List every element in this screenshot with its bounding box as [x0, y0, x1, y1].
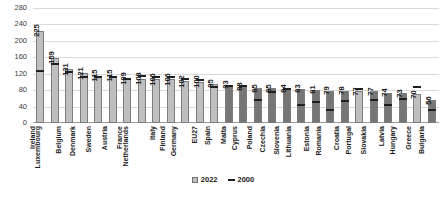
bar-group: 106 [164, 8, 179, 123]
bar-group: 109 [120, 8, 135, 123]
legend-label: 2000 [238, 176, 255, 184]
bar-2022[interactable]: 83 [297, 89, 305, 123]
legend-dash-icon [228, 179, 235, 181]
bar-2022[interactable]: 131 [65, 69, 73, 123]
x-axis-label-netherlands: Netherlands [122, 126, 129, 166]
marker-2000 [254, 99, 262, 101]
bar-group: 121 [77, 8, 92, 123]
x-axis-label-czechia: Czechia [259, 126, 266, 152]
bar-group: 84 [280, 8, 295, 123]
y-tick-label: 280 [14, 4, 27, 12]
marker-2000 [36, 70, 44, 72]
marker-2000 [152, 76, 160, 78]
x-axis-label-cyprus: Cyprus [231, 126, 238, 150]
bar-group: 108 [135, 8, 150, 123]
x-axis-label-malta: Malta [220, 126, 227, 144]
y-tick-label: 240 [14, 21, 27, 29]
x-axis-label-austria: Austria [101, 126, 108, 150]
marker-2000 [326, 109, 334, 111]
x-axis-label-greece: Greece [405, 126, 412, 150]
bar-2022[interactable]: 121 [80, 73, 88, 123]
bar-2022[interactable]: 159 [51, 58, 59, 123]
x-axis-label-germany: Germany [170, 126, 177, 156]
bar-2022[interactable]: 225 [36, 31, 44, 123]
bar-chart: 28024020016012080400 2251591311211151151… [0, 0, 446, 203]
bar-2022[interactable]: 100 [196, 82, 204, 123]
bar-series-group: 2251591311211151151091081061061021009593… [33, 8, 439, 123]
bar-value-label: 225 [33, 24, 41, 37]
bar-group: 74 [381, 8, 396, 123]
bar-2022[interactable]: 79 [326, 91, 334, 123]
x-axis-label-slovakia: Slovakia [360, 126, 367, 154]
y-tick-label: 0 [23, 119, 27, 127]
marker-2000 [399, 98, 407, 100]
marker-2000 [413, 86, 421, 88]
x-axis-label-finland: Finland [158, 126, 165, 151]
bar-2022[interactable]: 115 [109, 76, 117, 123]
plot-area: 2251591311211151151091081061061021009593… [33, 8, 439, 123]
bar-2022[interactable]: 102 [181, 81, 189, 123]
bar-2022[interactable]: 81 [312, 90, 320, 123]
bar-group: 70 [410, 8, 425, 123]
bar-2022[interactable]: 88 [239, 87, 247, 123]
x-axis-label-croatia: Croatia [333, 126, 340, 150]
marker-2000 [138, 75, 146, 77]
bar-group: 85 [251, 8, 266, 123]
marker-2000 [94, 76, 102, 78]
bar-value-label: 77 [366, 87, 374, 95]
bar-2022[interactable]: 70 [413, 94, 421, 123]
bar-2022[interactable]: 77 [370, 91, 378, 123]
x-axis-label-lithuania: Lithuania [286, 126, 293, 157]
bar-group: 115 [106, 8, 121, 123]
x-label-slot: Bulgaria [425, 125, 440, 170]
bar-value-label: 73 [395, 89, 403, 97]
y-tick-label: 80 [19, 86, 27, 94]
bar-2022[interactable]: 93 [225, 85, 233, 123]
bar-2022[interactable]: 109 [123, 78, 131, 123]
y-tick-label: 160 [14, 54, 27, 62]
bar-group: 106 [149, 8, 164, 123]
bar-group: 78 [338, 8, 353, 123]
bar-2022[interactable]: 108 [138, 79, 146, 123]
bar-value-label: 79 [323, 86, 331, 94]
x-axis-label-belgium: Belgium [55, 126, 62, 154]
marker-2000 [210, 86, 218, 88]
x-axis-label-italy: Italy [149, 126, 156, 140]
marker-2000 [123, 78, 131, 80]
bar-2022[interactable]: 85 [268, 88, 276, 123]
bar-value-label: 85 [250, 84, 258, 92]
x-axis-label-estonia: Estonia [303, 126, 310, 151]
marker-2000 [312, 101, 320, 103]
marker-2000 [181, 78, 189, 80]
marker-2000 [428, 109, 436, 111]
marker-2000 [268, 91, 276, 93]
bar-2022[interactable]: 115 [94, 76, 102, 123]
bar-2022[interactable]: 77 [355, 91, 363, 123]
bar-2022[interactable]: 106 [152, 79, 160, 123]
bar-value-label: 106 [163, 73, 171, 86]
legend-entry[interactable]: 2000 [228, 176, 255, 184]
x-axis-label-latvia: Latvia [378, 126, 385, 146]
marker-2000 [196, 79, 204, 81]
bar-group: 83 [294, 8, 309, 123]
bar-2022[interactable]: 106 [167, 79, 175, 123]
legend-entry[interactable]: 2022 [192, 176, 218, 184]
bar-2022[interactable]: 84 [283, 89, 291, 124]
bar-2022[interactable]: 95 [210, 84, 218, 123]
bar-value-label: 81 [308, 86, 316, 94]
y-tick-label: 40 [19, 103, 27, 111]
marker-2000 [341, 100, 349, 102]
x-axis-label-portugal: Portugal [345, 126, 352, 154]
bar-2022[interactable]: 73 [399, 93, 407, 123]
marker-2000 [370, 99, 378, 101]
x-axis-label-sweden: Sweden [85, 126, 92, 152]
bar-2022[interactable]: 85 [254, 88, 262, 123]
bar-value-label: 159 [47, 51, 55, 64]
bar-2022[interactable]: 78 [341, 91, 349, 123]
bar-group: 95 [207, 8, 222, 123]
bar-group: 115 [91, 8, 106, 123]
bar-2022[interactable]: 56 [428, 100, 436, 123]
bar-group: 100 [193, 8, 208, 123]
bar-2022[interactable]: 74 [384, 93, 392, 123]
bar-group: 88 [236, 8, 251, 123]
